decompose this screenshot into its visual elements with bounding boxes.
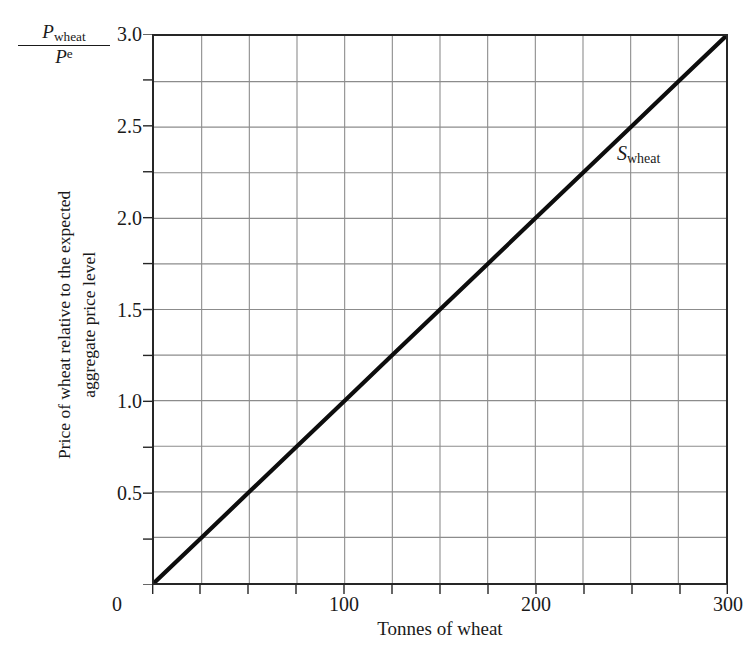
y-axis-ticks (143, 34, 153, 585)
x-axis-title: Tonnes of wheat (152, 618, 728, 640)
x-tick-label: 300 (688, 594, 751, 614)
x-axis-ticks (152, 585, 728, 595)
denominator-base: P (55, 47, 67, 68)
y-tick-label: 1.5 (86, 300, 142, 320)
supply-curve-label-base: S (617, 142, 627, 164)
supply-curve-label: Swheat (617, 143, 660, 166)
y-tick-label: 2.5 (86, 116, 142, 136)
y-tick-label: 0.5 (86, 483, 142, 503)
y-tick-label: 1.0 (86, 391, 142, 411)
x-tick-label: 100 (304, 594, 384, 614)
plot-area (152, 34, 728, 585)
y-axis-tick-labels: 00.51.01.52.02.53.0 (86, 34, 142, 585)
origin-label: 0 (112, 594, 122, 614)
y-tick-label: 2.0 (86, 208, 142, 228)
numerator-subscript: wheat (54, 29, 86, 44)
grid-and-series-layer (154, 36, 726, 583)
supply-curve-label-subscript: wheat (627, 151, 660, 166)
y-tick-label: 3.0 (86, 24, 142, 44)
x-axis-tick-labels: 100200300 (152, 594, 728, 620)
wheat-supply-chart: Pwheat Pe Price of wheat relative to the… (0, 0, 751, 651)
denominator-superscript: e (67, 46, 73, 61)
numerator-base: P (42, 21, 54, 42)
x-tick-label: 200 (496, 594, 576, 614)
